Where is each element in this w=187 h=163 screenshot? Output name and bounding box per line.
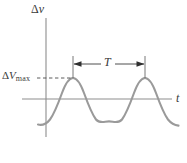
waveform-figure: Δv t ΔVmax T <box>0 0 187 163</box>
amplitude-subscript: max <box>16 74 30 83</box>
period-arrowhead-left <box>74 61 82 67</box>
y-axis-label: Δv <box>31 3 44 15</box>
period-arrowhead-right <box>137 61 145 67</box>
y-axis-delta-symbol: Δ <box>31 2 39 16</box>
sine-wave-curve <box>38 78 179 126</box>
x-axis-label: t <box>176 92 179 104</box>
y-axis-variable-symbol: v <box>39 2 44 16</box>
amplitude-label: ΔVmax <box>2 70 30 83</box>
period-label: T <box>104 56 111 68</box>
amplitude-v-symbol: V <box>9 69 16 81</box>
